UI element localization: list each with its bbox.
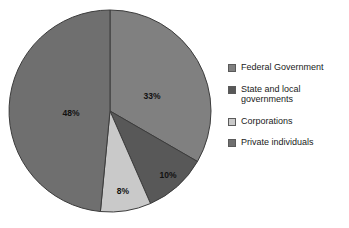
pie-slice-data-label: 48%: [62, 108, 79, 118]
pie-slice-group: [9, 10, 211, 212]
pie-chart-svg: 33%10%8%48%: [8, 8, 213, 215]
legend-item-private-individuals[interactable]: Private individuals: [228, 137, 346, 148]
pie-slice-data-label: 8%: [117, 186, 130, 196]
pie-chart-plot-area: 33%10%8%48%: [8, 8, 213, 215]
legend-item-label: Federal Government: [241, 62, 324, 73]
pie-slice-data-label: 10%: [159, 170, 176, 180]
pie-slice-data-label: 33%: [143, 91, 160, 101]
legend-swatch-icon: [228, 86, 236, 94]
legend-item-corporations[interactable]: Corporations: [228, 116, 346, 127]
legend-swatch-icon: [228, 139, 236, 147]
legend-item-label: Private individuals: [241, 137, 314, 148]
legend-item-label: Corporations: [241, 116, 293, 127]
legend-item-state-and-local-governments[interactable]: State and local governments: [228, 84, 346, 105]
pie-slice[interactable]: [9, 10, 110, 212]
legend-swatch-icon: [228, 118, 236, 126]
legend-item-federal-government[interactable]: Federal Government: [228, 62, 346, 73]
legend-item-label: State and local governments: [241, 84, 301, 105]
chart-legend: Federal Government State and local gover…: [228, 62, 346, 148]
legend-swatch-icon: [228, 64, 236, 72]
pie-chart-figure: 33%10%8%48% Federal Government State and…: [0, 0, 349, 228]
